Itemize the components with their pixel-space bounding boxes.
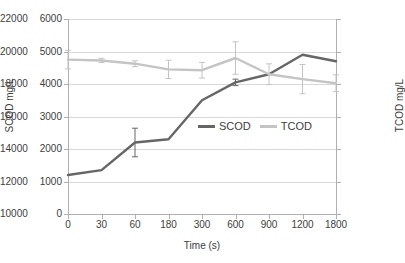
y-axis-left-tick bbox=[64, 19, 68, 20]
y-axis-left-tick bbox=[64, 182, 68, 183]
x-axis-tick bbox=[303, 215, 304, 219]
x-axis-tick bbox=[68, 215, 69, 219]
legend-item-tcod: TCOD bbox=[260, 121, 312, 132]
x-axis-tick-label: 180 bbox=[160, 220, 177, 230]
x-axis-tick-label: 900 bbox=[261, 220, 278, 230]
y-axis-left-tick-label: 3000 bbox=[40, 112, 62, 122]
y-axis-right-tick-label: 20000 bbox=[0, 47, 28, 57]
x-axis-tick-label: 0 bbox=[65, 220, 71, 230]
x-axis-tick-label: 600 bbox=[227, 220, 244, 230]
x-axis-tick bbox=[202, 215, 203, 219]
y-axis-left-tick bbox=[64, 52, 68, 53]
y-axis-left-tick-label: 0 bbox=[56, 209, 62, 219]
x-axis-tick-label: 1800 bbox=[325, 220, 347, 230]
legend-item-scod: SCOD bbox=[198, 121, 251, 132]
x-axis-tick bbox=[102, 215, 103, 219]
x-axis-tick bbox=[336, 215, 337, 219]
legend-swatch-tcod bbox=[260, 125, 277, 128]
chart-legend: SCOD TCOD bbox=[198, 121, 312, 132]
y-axis-right-title: TCOD mg/L bbox=[394, 51, 405, 161]
y-axis-left-tick-label: 6000 bbox=[40, 14, 62, 24]
x-axis-tick bbox=[269, 215, 270, 219]
legend-label-tcod: TCOD bbox=[281, 121, 312, 132]
y-axis-right-tick-label: 14000 bbox=[0, 144, 28, 154]
x-axis-tick-label: 30 bbox=[96, 220, 107, 230]
y-axis-left-tick bbox=[64, 117, 68, 118]
y-axis-right-tick bbox=[337, 19, 341, 20]
x-axis-tick-label: 60 bbox=[129, 220, 140, 230]
y-axis-right-tick bbox=[337, 214, 341, 215]
x-axis-title: Time (s) bbox=[0, 240, 404, 251]
legend-swatch-scod bbox=[198, 125, 215, 128]
x-axis-tick bbox=[169, 215, 170, 219]
y-axis-right-tick bbox=[337, 117, 341, 118]
y-axis-right-tick-label: 18000 bbox=[0, 79, 28, 89]
y-axis-right-tick-label: 22000 bbox=[0, 14, 28, 24]
legend-label-scod: SCOD bbox=[219, 121, 251, 132]
x-axis-tick bbox=[236, 215, 237, 219]
y-axis-left-tick-label: 2000 bbox=[40, 144, 62, 154]
y-axis-left-tick bbox=[64, 84, 68, 85]
y-axis-left-tick bbox=[64, 149, 68, 150]
y-axis-right-tick bbox=[337, 84, 341, 85]
y-axis-left-tick bbox=[64, 214, 68, 215]
series-tcod bbox=[65, 42, 339, 94]
series-line bbox=[68, 58, 336, 83]
y-axis-right-tick bbox=[337, 182, 341, 183]
x-axis-tick-label: 300 bbox=[194, 220, 211, 230]
y-axis-right-tick bbox=[337, 52, 341, 53]
x-axis-tick-label: 1200 bbox=[291, 220, 313, 230]
y-axis-right-tick-label: 10000 bbox=[0, 209, 28, 219]
y-axis-right-tick-label: 16000 bbox=[0, 112, 28, 122]
y-axis-left-tick-label: 1000 bbox=[40, 177, 62, 187]
y-axis-left-tick-label: 5000 bbox=[40, 47, 62, 57]
x-axis-tick bbox=[135, 215, 136, 219]
y-axis-right-tick bbox=[337, 149, 341, 150]
y-axis-left-tick-label: 4000 bbox=[40, 79, 62, 89]
y-axis-right-tick-label: 12000 bbox=[0, 177, 28, 187]
